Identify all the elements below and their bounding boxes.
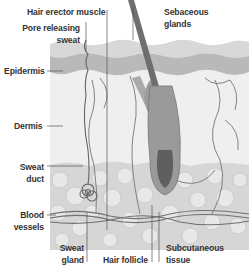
- label-subcutaneous-line1: Subcutaneous: [166, 243, 224, 253]
- label-sweat-gland-line1: Sweat: [40, 243, 84, 253]
- label-sebaceous-line2: glands: [164, 19, 191, 29]
- label-hair-erector-muscle: Hair erector muscle: [27, 7, 105, 17]
- label-hair-follicle: Hair follicle: [103, 255, 148, 265]
- label-pore-line1: Pore releasing: [22, 23, 80, 33]
- label-sebaceous-line1: Sebaceous: [164, 7, 208, 17]
- label-sweat-duct-line1: Sweat: [0, 162, 44, 172]
- label-sweat-gland-line2: gland: [40, 255, 84, 265]
- label-sweat-duct-line2: duct: [0, 174, 44, 184]
- skin-diagram: Hair erector muscle Pore releasing sweat…: [0, 0, 249, 269]
- label-blood-line2: vessels: [0, 222, 44, 232]
- subcutaneous-layer: [50, 162, 249, 250]
- label-blood-line1: Blood: [0, 210, 44, 220]
- label-dermis: Dermis: [14, 121, 43, 131]
- label-pore-line2: sweat: [22, 35, 80, 45]
- label-epidermis: Epidermis: [4, 66, 45, 76]
- label-subcutaneous-line2: tissue: [166, 255, 190, 265]
